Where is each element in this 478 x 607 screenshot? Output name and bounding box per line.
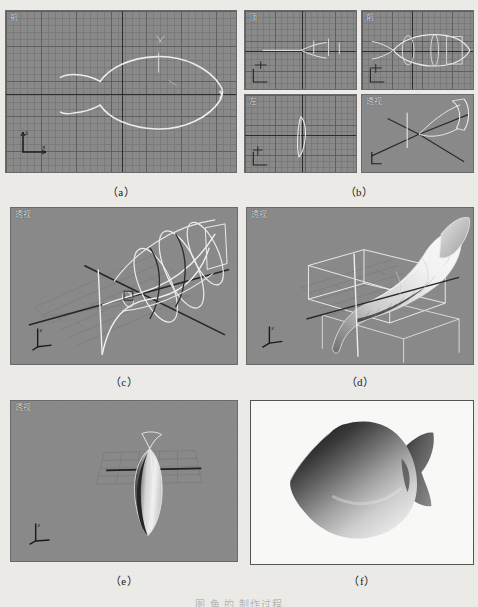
render-output-frame [250, 400, 474, 565]
panel-b: 顶 前 [244, 10, 474, 173]
viewport-perspective-d[interactable]: z 透视 [246, 207, 474, 365]
viewport-label-e: 透视 [15, 403, 30, 412]
viewport-label-c: 透视 [15, 210, 30, 219]
viewport-label-perspective: 透视 [366, 97, 381, 106]
panel-e: z 透视 [10, 400, 238, 562]
viewport-perspective-c[interactable]: z 透视 [10, 207, 238, 365]
perspective-geometry [362, 95, 473, 173]
svg-text:x: x [42, 143, 46, 150]
axis-tripod-gizmo: z x [18, 128, 48, 158]
viewport-perspective-e[interactable]: z 透视 [10, 400, 238, 562]
axis-tripod-gizmo: z [29, 326, 55, 352]
panel-f [250, 400, 474, 565]
caption-a: （a） [5, 183, 237, 199]
svg-text:z: z [25, 129, 28, 136]
axis-tripod-gizmo [367, 66, 387, 86]
viewport-front-a[interactable]: z x 前 [5, 10, 237, 173]
caption-c: （c） [10, 373, 238, 389]
viewport-label-top: 顶 [249, 13, 257, 22]
viewport-top-b[interactable]: 顶 [244, 10, 357, 90]
caption-d: （d） [246, 373, 474, 389]
svg-text:z: z [39, 327, 42, 333]
caption-f: （f） [250, 572, 474, 588]
panel-c: z 透视 [10, 207, 238, 365]
viewport-label-a: 前 [10, 13, 18, 22]
panel-a: z x 前 [5, 10, 237, 173]
svg-text:z: z [271, 325, 274, 331]
viewport-perspective-b[interactable]: 透视 [361, 94, 474, 173]
viewport-label-left: 左 [249, 97, 257, 106]
viewport-left-b[interactable]: 左 [244, 94, 357, 173]
axis-tripod-gizmo: z [259, 324, 285, 350]
viewport-label-front: 前 [366, 13, 374, 22]
figure-page: z x 前 （a） 顶 [0, 0, 478, 607]
axis-tripod-gizmo [250, 66, 270, 86]
panel-d: z 透视 [246, 207, 474, 365]
caption-e: （e） [10, 572, 238, 588]
axis-tripod-gizmo: z [27, 521, 53, 547]
viewport-front-b[interactable]: 前 [361, 10, 474, 90]
caption-b: （b） [244, 183, 474, 199]
bottom-note: 图 鱼 的 制作过程 [0, 596, 478, 607]
axis-tripod-gizmo [250, 149, 270, 169]
rendered-fish-model [251, 401, 473, 565]
viewport-label-d: 透视 [251, 210, 266, 219]
svg-text:z: z [37, 522, 40, 528]
